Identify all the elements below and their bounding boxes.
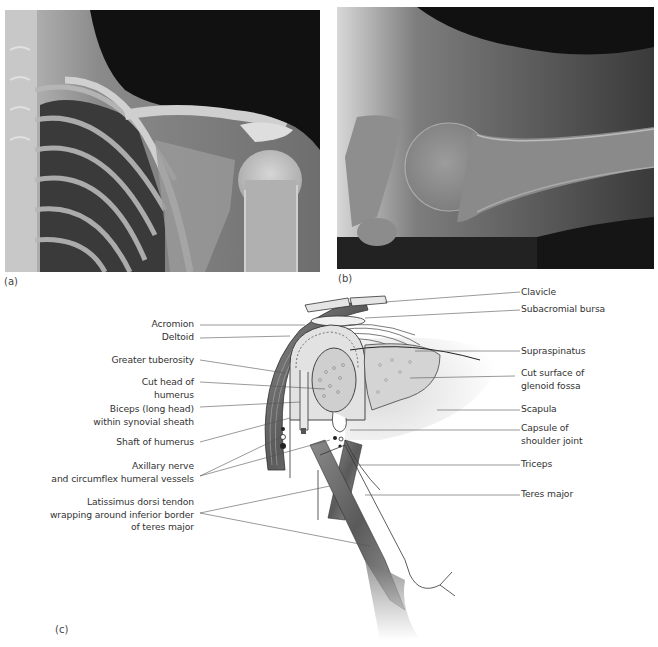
label-deltoid: Deltoid — [162, 331, 194, 344]
label-clavicle: Clavicle — [521, 286, 556, 299]
label-subacromial-bursa: Subacromial bursa — [521, 303, 605, 316]
panel-label-c: (c) — [55, 624, 68, 635]
xray-image-a — [5, 10, 320, 272]
xray-panel-a — [5, 10, 320, 272]
xray-panel-b — [337, 7, 654, 269]
label-triceps: Triceps — [521, 458, 552, 471]
panel-label-b: (b) — [338, 273, 352, 284]
label-supraspinatus: Supraspinatus — [521, 345, 585, 358]
label-acromion: Acromion — [151, 318, 194, 331]
label-cut-head-of-humerus: Cut head of humerus — [142, 376, 194, 401]
label-capsule-of-shoulder-joint: Capsule of shoulder joint — [521, 422, 583, 447]
label-latissimus-dorsi-tendon: Latissimus dorsi tendon wrapping around … — [50, 496, 194, 534]
label-cut-surface-glenoid-fossa: Cut surface of glenoid fossa — [521, 367, 584, 392]
label-teres-major: Teres major — [521, 488, 573, 501]
nerve-dot — [281, 427, 285, 431]
label-biceps-long-head: Biceps (long head) within synovial sheat… — [93, 403, 194, 428]
label-axillary-nerve: Axillary nerve and circumflex humeral ve… — [51, 460, 194, 485]
label-greater-tuberosity: Greater tuberosity — [111, 354, 194, 367]
label-scapula: Scapula — [521, 403, 557, 416]
label-shaft-of-humerus: Shaft of humerus — [116, 436, 194, 449]
xray-image-b — [337, 7, 654, 269]
